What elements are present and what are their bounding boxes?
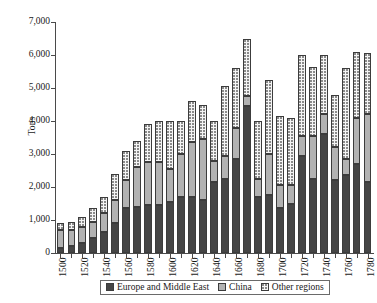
bar-1730: [309, 22, 317, 253]
y-tick-label: 0: [14, 248, 50, 258]
x-tick-label: 1540: [104, 257, 114, 276]
legend-item: China: [218, 282, 252, 292]
bar-segment-europe-1580: [144, 205, 152, 253]
bar-segment-china-1660: [232, 128, 240, 159]
bar-segment-other-1700: [276, 116, 284, 185]
y-tick-label: 6,000: [14, 50, 50, 60]
x-tick-label: 1640: [213, 257, 223, 276]
bar-segment-other-1610: [177, 121, 185, 154]
bar-segment-other-1710: [287, 118, 295, 186]
bar-segment-other-1670: [243, 39, 251, 97]
bar-1640: [210, 22, 218, 253]
legend-label: Europe and Middle East: [117, 282, 209, 292]
legend-swatch-icon: [218, 283, 226, 291]
x-tick-label: 1740: [323, 257, 333, 276]
x-tick-label: 1620: [191, 257, 201, 276]
bar-segment-other-1580: [144, 124, 152, 162]
bar-segment-europe-1590: [155, 205, 163, 253]
bar-segment-other-1760: [342, 68, 350, 159]
bar-segment-other-1520: [78, 217, 86, 227]
bar-1710: [287, 22, 295, 253]
bar-segment-china-1720: [298, 136, 306, 156]
bar-segment-china-1640: [210, 161, 218, 182]
x-tick-mark: [93, 254, 94, 258]
x-tick-mark: [247, 254, 248, 258]
y-tick-mark: [51, 154, 55, 155]
bar-segment-china-1560: [122, 180, 130, 208]
x-tick-label: 1700: [279, 257, 289, 276]
bar-segment-china-1740: [320, 114, 328, 134]
bar-segment-china-1520: [78, 227, 86, 244]
x-tick-mark: [214, 254, 215, 258]
bar-segment-europe-1750: [331, 180, 339, 253]
bar-segment-other-1550: [111, 174, 119, 200]
y-tick-mark: [51, 22, 55, 23]
bar-segment-other-1730: [309, 67, 317, 136]
x-tick-mark: [346, 254, 347, 258]
bar-1680: [254, 22, 262, 253]
y-tick-mark: [51, 253, 55, 254]
bar-segment-europe-1690: [265, 195, 273, 253]
bar-1530: [89, 22, 97, 253]
bar-segment-europe-1710: [287, 204, 295, 254]
bar-segment-other-1540: [100, 197, 108, 214]
bar-1620: [188, 22, 196, 253]
bar-segment-europe-1740: [320, 134, 328, 253]
bar-1580: [144, 22, 152, 253]
bar-1780: [364, 22, 372, 253]
bar-1770: [353, 22, 361, 253]
legend-label: Other regions: [272, 282, 324, 292]
x-tick-mark: [82, 254, 83, 258]
bar-segment-other-1690: [265, 80, 273, 154]
y-tick-mark: [51, 187, 55, 188]
stacked-bar-chart: Tons 7,0006,0005,0004,0003,0002,0001,000…: [0, 0, 377, 303]
x-tick-mark: [137, 254, 138, 258]
x-tick-mark: [181, 254, 182, 258]
bar-1600: [166, 22, 174, 253]
bar-1560: [122, 22, 130, 253]
x-tick-label: 1760: [345, 257, 355, 276]
bar-segment-europe-1540: [100, 232, 108, 253]
bar-segment-europe-1510: [68, 246, 76, 253]
x-tick-mark: [335, 254, 336, 258]
x-tick-label: 1500: [60, 257, 70, 276]
x-tick-label: 1780: [367, 257, 377, 276]
bar-segment-europe-1570: [133, 207, 141, 253]
bar-segment-other-1530: [89, 208, 97, 221]
bar-1520: [78, 22, 86, 253]
bar-1510: [68, 22, 76, 253]
y-tick-label: 1,000: [14, 215, 50, 225]
bar-segment-other-1740: [320, 55, 328, 114]
x-tick-label: 1580: [147, 257, 157, 276]
bar-segment-other-1620: [188, 101, 196, 142]
bar-1650: [221, 22, 229, 253]
bar-segment-other-1780: [364, 53, 372, 114]
bar-segment-china-1650: [221, 156, 229, 179]
x-tick-label: 1560: [126, 257, 136, 276]
bar-segment-europe-1670: [243, 106, 251, 253]
x-tick-mark: [126, 254, 127, 258]
bar-segment-europe-1550: [111, 223, 119, 253]
bar-segment-china-1630: [199, 139, 207, 200]
bar-segment-china-1550: [111, 200, 119, 223]
bar-1670: [243, 22, 251, 253]
x-tick-mark: [60, 254, 61, 258]
bar-segment-other-1600: [166, 121, 174, 169]
x-tick-mark: [357, 254, 358, 258]
legend-swatch-icon: [106, 283, 114, 291]
y-tick-mark: [51, 88, 55, 89]
bar-segment-china-1730: [309, 136, 317, 179]
bar-segment-china-1570: [133, 167, 141, 207]
bar-segment-china-1680: [254, 179, 262, 197]
bar-1750: [331, 22, 339, 253]
bar-1700: [276, 22, 284, 253]
y-tick-label: 2,000: [14, 182, 50, 192]
bar-1720: [298, 22, 306, 253]
bar-segment-china-1610: [177, 154, 185, 197]
x-tick-label: 1680: [257, 257, 267, 276]
bar-1570: [133, 22, 141, 253]
y-tick-label: 5,000: [14, 83, 50, 93]
bar-1590: [155, 22, 163, 253]
bar-1760: [342, 22, 350, 253]
x-tick-label: 1720: [301, 257, 311, 276]
